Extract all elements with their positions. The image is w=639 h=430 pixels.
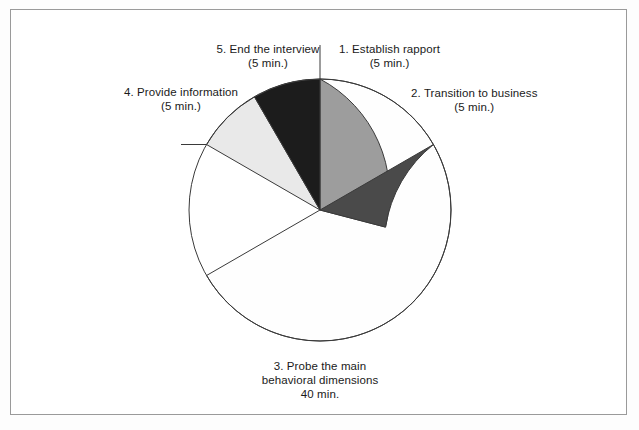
pie-chart: 1. Establish rapport (5 min.) 2. Transit… — [0, 0, 639, 430]
pie-label-3-line1: 3. Probe the main — [274, 360, 366, 372]
pie-label-5-line2: (5 min.) — [194, 56, 342, 70]
pie-label-2-line2: (5 min.) — [411, 100, 538, 114]
pie-label-3: 3. Probe the main behavioral dimensions … — [227, 359, 413, 401]
pie-label-1-line1: 1. Establish rapport — [339, 43, 440, 55]
pie-label-2-line1: 2. Transition to business — [411, 87, 538, 99]
pie-label-5: 5. End the interview (5 min.) — [194, 42, 342, 70]
pie-label-4-line2: (5 min.) — [110, 99, 252, 113]
pie-label-1-line2: (5 min.) — [339, 56, 440, 70]
pie-label-2: 2. Transition to business (5 min.) — [411, 86, 538, 114]
pie-label-4: 4. Provide information (5 min.) — [110, 85, 252, 113]
figure-page: 1. Establish rapport (5 min.) 2. Transit… — [0, 0, 639, 430]
pie-label-1: 1. Establish rapport (5 min.) — [339, 42, 440, 70]
pie-label-4-line1: 4. Provide information — [124, 86, 238, 98]
pie-label-3-line2: behavioral dimensions — [227, 373, 413, 387]
pie-label-5-line1: 5. End the interview — [216, 43, 319, 55]
pie-label-3-line3: 40 min. — [227, 387, 413, 401]
